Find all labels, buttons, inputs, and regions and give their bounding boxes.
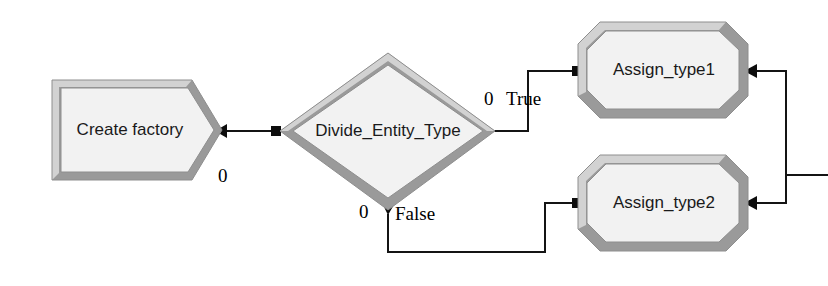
- node-assign-type2[interactable]: Assign_type2: [578, 155, 748, 251]
- edge-create-to-divide[interactable]: [215, 124, 281, 138]
- assign-type2-label: Assign_type2: [613, 193, 715, 212]
- diagram-canvas: Create factory Divide_Entity_Type Assign…: [0, 0, 828, 286]
- diagram-svg: Create factory Divide_Entity_Type Assign…: [0, 0, 828, 286]
- node-create-factory[interactable]: Create factory: [52, 80, 222, 180]
- divide-true-index-label: 0: [484, 88, 494, 109]
- create-factory-out-index-label: 0: [218, 165, 228, 186]
- edge-assign1-out[interactable]: [744, 64, 786, 175]
- create-factory-label: Create factory: [77, 120, 184, 139]
- assign-type1-label: Assign_type1: [613, 60, 715, 79]
- divide-false-index-label: 0: [359, 201, 369, 222]
- edge-assign2-out[interactable]: [744, 175, 786, 210]
- divide-true-name-label: True: [506, 88, 541, 109]
- divide-false-name-label: False: [395, 203, 435, 224]
- node-divide-entity-type[interactable]: Divide_Entity_Type: [280, 53, 495, 210]
- edge-assign2-out-line: [757, 175, 786, 203]
- node-assign-type1[interactable]: Assign_type1: [578, 22, 748, 118]
- divide-entity-type-label: Divide_Entity_Type: [315, 121, 461, 140]
- edge-assign1-out-line: [757, 71, 786, 175]
